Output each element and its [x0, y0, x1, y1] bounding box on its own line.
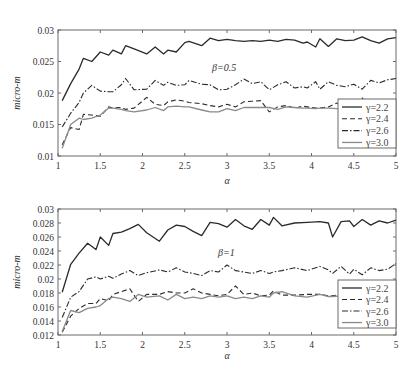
y-tick-label: 0.03	[37, 205, 54, 215]
legend: γ=2.2γ=2.4γ=2.6γ=3.0	[338, 280, 396, 328]
legend-label: γ=2.4	[365, 294, 389, 305]
y-tick-label: 0.02	[37, 89, 54, 99]
x-tick-label: 2.5	[179, 340, 191, 350]
y-tick-label: 0.014	[33, 317, 55, 327]
x-tick-label: 1.5	[94, 340, 106, 350]
x-tick-label: 2	[140, 340, 145, 350]
legend-label: γ=3.0	[365, 317, 389, 328]
legend-label: γ=3.0	[365, 137, 389, 148]
y-tick-label: 0.026	[33, 233, 55, 243]
legend-label: γ=2.6	[365, 125, 389, 136]
x-tick-label: 3.5	[263, 161, 275, 171]
x-tick-label: 2.5	[179, 161, 191, 171]
x-tick-label: 5	[394, 340, 399, 350]
x-tick-label: 2	[140, 161, 145, 171]
legend-label: γ=2.4	[365, 113, 389, 124]
chart-panel-beta-1: 0.0120.0140.0160.0180.020.0220.0240.0260…	[11, 205, 399, 362]
y-tick-label: 0.016	[33, 303, 55, 313]
legend-label: γ=2.2	[365, 283, 389, 294]
y-tick-label: 0.012	[33, 331, 55, 341]
legend-label: γ=2.6	[365, 306, 389, 317]
x-tick-label: 4.5	[348, 161, 360, 171]
y-tick-label: 0.015	[33, 120, 55, 130]
figure-canvas: 0.010.0150.020.0250.03 11.522.533.544.55…	[0, 0, 417, 378]
x-tick-label: 1	[56, 161, 61, 171]
x-axis-label: α	[224, 350, 230, 361]
y-tick-label: 0.018	[33, 289, 55, 299]
y-tick-label: 0.025	[33, 57, 55, 67]
x-tick-label: 3	[225, 161, 230, 171]
x-tick-label: 3	[225, 340, 230, 350]
y-tick-label: 0.028	[33, 219, 55, 229]
y-tick-label: 0.022	[33, 261, 55, 271]
chart-panel-beta-0.5: 0.010.0150.020.0250.03 11.522.533.544.55…	[11, 26, 399, 187]
y-tick-label: 0.01	[37, 152, 54, 162]
y-axis-label: micro-m	[11, 76, 22, 110]
y-tick-label: 0.02	[37, 275, 54, 285]
x-tick-label: 3.5	[263, 340, 275, 350]
y-axis-label: micro-m	[11, 255, 22, 289]
x-tick-label: 4	[309, 340, 314, 350]
legend-label: γ=2.2	[365, 102, 389, 113]
x-tick-label: 4	[309, 161, 314, 171]
x-axis-label: α	[224, 175, 230, 186]
y-tick-label: 0.03	[37, 26, 54, 36]
beta-annotation: β=1	[217, 247, 235, 258]
legend: γ=2.2γ=2.4γ=2.6γ=3.0	[338, 99, 396, 148]
x-tick-label: 1	[56, 340, 61, 350]
x-tick-label: 5	[394, 161, 399, 171]
x-tick-label: 1.5	[94, 161, 106, 171]
beta-annotation: β=0.5	[211, 62, 236, 73]
y-tick-label: 0.024	[33, 247, 55, 257]
x-tick-label: 4.5	[348, 340, 360, 350]
